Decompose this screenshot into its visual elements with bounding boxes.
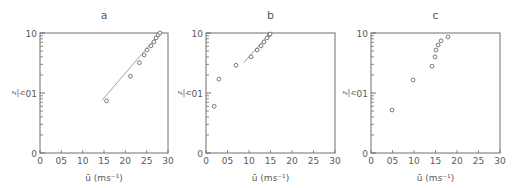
chart-panel-b: b001100051015202530ū (ms⁻¹)zh [176, 9, 341, 183]
x-tick-label: 30 [329, 156, 341, 166]
x-tick-label: 30 [162, 156, 174, 166]
data-point [411, 78, 415, 82]
data-point [152, 40, 156, 44]
x-tick-label: 05 [56, 156, 67, 166]
figure: a001100051015202530ū (ms⁻¹)zhb0011000510… [0, 0, 519, 188]
y-tick-label: 10 [26, 29, 38, 39]
chart-panel-c: c001100051015202530ū (ms⁻¹)zh [341, 9, 506, 183]
data-point [268, 32, 272, 36]
x-tick-label: 15 [98, 156, 109, 166]
data-point [446, 35, 450, 39]
data-point [217, 77, 221, 81]
x-tick-label: 05 [222, 156, 233, 166]
x-tick-label: 20 [120, 156, 132, 166]
x-tick-label: 05 [387, 156, 398, 166]
x-tick-label: 20 [286, 156, 298, 166]
data-point [255, 48, 259, 52]
panel-title: c [432, 9, 438, 22]
data-point [105, 99, 109, 103]
x-tick-label: 25 [473, 156, 484, 166]
y-tick-label: 01 [26, 89, 37, 99]
data-point [142, 53, 146, 57]
svg-text:z: z [10, 91, 18, 96]
x-tick-label: 15 [430, 156, 441, 166]
svg-text:z: z [341, 91, 349, 96]
plot-frame [206, 33, 335, 153]
data-point [430, 64, 434, 68]
data-point [439, 39, 443, 43]
svg-text:h: h [19, 91, 27, 95]
x-tick-label: 10 [408, 156, 420, 166]
x-axis-label: ū (ms⁻¹) [417, 173, 454, 183]
data-point [262, 40, 266, 44]
y-tick-label: 01 [357, 89, 368, 99]
svg-text:h: h [185, 91, 193, 95]
data-point [434, 48, 438, 52]
x-tick-label: 25 [308, 156, 319, 166]
data-point [249, 55, 253, 59]
data-point [433, 55, 437, 59]
y-tick-label: 01 [192, 89, 203, 99]
data-point [158, 31, 162, 35]
fit-line [102, 33, 160, 100]
x-tick-label: 10 [243, 156, 255, 166]
data-point [212, 104, 216, 108]
x-tick-label: 10 [77, 156, 89, 166]
y-axis-label: zh [341, 89, 358, 97]
x-tick-label: 30 [494, 156, 506, 166]
x-tick-label: 0 [37, 156, 43, 166]
y-axis-label: zh [176, 89, 193, 97]
x-tick-label: 0 [203, 156, 209, 166]
y-tick-label: 10 [192, 29, 204, 39]
chart-panel-a: a001100051015202530ū (ms⁻¹)zh [10, 9, 174, 183]
x-tick-label: 25 [141, 156, 152, 166]
svg-text:h: h [350, 91, 358, 95]
data-point [149, 44, 153, 48]
x-tick-label: 20 [451, 156, 463, 166]
y-tick-label: 10 [357, 29, 369, 39]
panel-title: a [101, 9, 108, 22]
x-tick-label: 0 [368, 156, 374, 166]
x-tick-label: 15 [265, 156, 276, 166]
svg-text:z: z [176, 91, 184, 96]
data-point [259, 44, 263, 48]
panel-title: b [267, 9, 274, 22]
data-point [390, 108, 394, 112]
data-point [145, 48, 149, 52]
data-point [234, 63, 238, 67]
data-point [436, 43, 440, 47]
data-point [138, 61, 142, 65]
x-axis-label: ū (ms⁻¹) [85, 173, 122, 183]
y-axis-label: zh [10, 89, 27, 97]
x-axis-label: ū (ms⁻¹) [252, 173, 289, 183]
data-point [129, 74, 133, 78]
